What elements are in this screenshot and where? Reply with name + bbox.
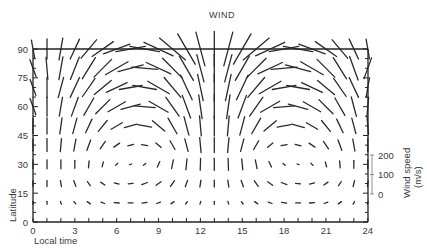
wind-vector <box>255 160 257 169</box>
x-axis-label: Local time <box>34 235 77 246</box>
scale-bar-tick-label: 100 <box>378 169 394 180</box>
x-tick-label: 18 <box>279 225 290 236</box>
wind-vector <box>132 67 158 69</box>
wind-vector <box>349 78 358 98</box>
wind-vector <box>157 162 160 168</box>
wind-vector <box>185 139 188 152</box>
wind-vector <box>87 202 90 204</box>
chart-title: WIND <box>209 10 235 20</box>
wind-vector <box>83 78 96 96</box>
y-tick-label: 30 <box>17 159 28 170</box>
wind-vector <box>228 201 229 204</box>
wind-vector <box>185 180 187 187</box>
x-tick-label: 24 <box>363 225 374 236</box>
wind-vector <box>254 141 259 150</box>
wind-vector <box>277 125 291 127</box>
wind-vector <box>317 59 335 77</box>
x-tick-label: 15 <box>237 225 248 236</box>
wind-vector <box>297 164 299 165</box>
wind-speed-scale-bar: 0100200 <box>370 150 394 200</box>
wind-vector <box>282 202 287 203</box>
wind-vector <box>310 183 315 184</box>
wind-vector <box>144 163 146 165</box>
wind-vector <box>182 95 190 118</box>
wind-vector <box>353 139 355 151</box>
wind-vector <box>199 95 202 119</box>
wind-vector <box>94 80 111 94</box>
wind-vector <box>46 57 48 79</box>
wind-vector <box>338 140 342 150</box>
wind-vector <box>318 80 335 94</box>
wind-vector <box>171 181 175 187</box>
wind-vector <box>254 181 258 187</box>
wind-vector <box>142 202 147 203</box>
wind-vector <box>259 81 281 94</box>
wind-vector <box>238 95 246 118</box>
wind-vector <box>287 86 310 90</box>
wind-vector <box>353 202 355 205</box>
wind-vector <box>255 202 258 204</box>
wind-vector <box>148 81 170 94</box>
wind-vector <box>170 141 175 150</box>
wind-vector <box>100 141 105 148</box>
wind-vector <box>60 139 61 152</box>
wind-vector <box>94 59 112 77</box>
wind-vector <box>86 119 92 133</box>
wind-vector <box>324 182 328 185</box>
wind-vector <box>281 145 287 146</box>
wind-vector <box>240 117 245 135</box>
y-axis-label: Latitude <box>7 188 18 222</box>
wind-vector <box>324 202 328 203</box>
wind-vector <box>352 118 356 133</box>
wind-vector <box>124 124 136 127</box>
wind-vector <box>74 139 76 151</box>
wind-vector <box>73 118 77 133</box>
wind-vector <box>323 141 328 148</box>
wind-vector <box>268 182 273 186</box>
wind-vector <box>87 140 91 150</box>
wind-vector <box>325 162 326 167</box>
wind-vector <box>157 202 161 203</box>
wind-vector <box>133 85 157 89</box>
wind-vector <box>351 97 356 116</box>
wind-vector <box>252 118 261 134</box>
wind-vector <box>128 183 133 184</box>
wind-vector <box>339 182 342 186</box>
wind-vector <box>184 117 189 135</box>
wind-vector <box>164 78 181 98</box>
y-tick-label: 75 <box>17 72 28 83</box>
wind-vector <box>303 102 320 112</box>
wind-vector <box>338 202 341 204</box>
y-axis-ticks: 0153045607590 <box>17 44 368 228</box>
wind-vector <box>106 83 127 93</box>
wind-vector <box>116 163 118 165</box>
x-tick-label: 9 <box>156 225 161 236</box>
wind-vector <box>105 62 128 75</box>
y-tick-label: 90 <box>17 44 28 55</box>
wind-vector <box>111 123 122 130</box>
wind-vector <box>163 58 183 78</box>
wind-vector <box>248 78 265 98</box>
wind-vector-chart: WIND 03691215182124 0153045607590 Local … <box>0 0 427 249</box>
wind-vector <box>200 116 202 136</box>
wind-vector <box>335 98 345 115</box>
wind-vector <box>242 159 243 170</box>
y-tick-label: 0 <box>23 217 28 228</box>
x-tick-label: 21 <box>321 225 332 236</box>
wind-vector <box>200 180 201 187</box>
wind-vector <box>102 162 103 167</box>
wind-vector <box>250 97 263 116</box>
wind-vector <box>353 181 355 187</box>
wind-vector <box>142 145 148 146</box>
wind-vector <box>227 116 229 136</box>
wind-vector <box>333 58 346 79</box>
wind-vector <box>241 139 244 152</box>
wind-vector <box>138 125 152 127</box>
wind-vector <box>89 161 90 168</box>
wind-vector <box>241 202 243 204</box>
wind-vector <box>128 144 134 146</box>
scale-bar-label: Wind speed <box>401 148 412 198</box>
wind-vector <box>274 106 295 108</box>
wind-vector <box>283 163 285 165</box>
wind-vector <box>301 62 324 75</box>
